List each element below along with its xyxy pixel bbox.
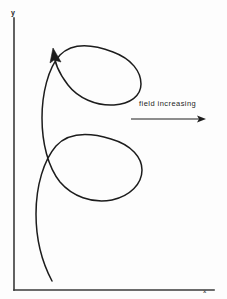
- trajectory-curve: [36, 46, 142, 281]
- trajectory-diagram: [0, 0, 227, 299]
- field-increasing-label: field increasing: [139, 100, 196, 108]
- figure-canvas: y x field increasing: [0, 0, 227, 299]
- x-axis-label: x: [203, 288, 206, 294]
- axes-group: [14, 18, 214, 290]
- field-increasing-arrow: [131, 116, 206, 123]
- y-axis-label: y: [11, 9, 15, 16]
